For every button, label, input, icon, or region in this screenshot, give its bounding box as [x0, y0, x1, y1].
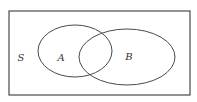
venn-diagram: S A B [0, 0, 197, 102]
set-a-ellipse [38, 25, 112, 77]
set-a-label: A [56, 52, 64, 63]
set-b-label: B [124, 51, 132, 62]
universe-rectangle-s [9, 11, 190, 95]
universe-label-s: S [18, 52, 25, 63]
